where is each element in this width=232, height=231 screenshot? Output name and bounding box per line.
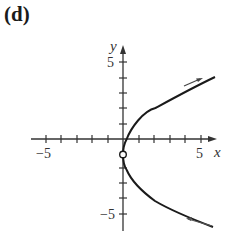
y-tick-label-neg5: −5 — [100, 207, 115, 222]
y-axis-label: y — [108, 38, 117, 54]
y-axis-arrow-icon — [120, 45, 126, 54]
curve-lower-branch — [123, 155, 213, 228]
x-axis-arrow-icon — [208, 136, 217, 142]
x-tick-label-5: 5 — [196, 146, 203, 161]
graph: −5 5 x y 5 −5 — [0, 0, 232, 231]
x-axis-label: x — [213, 144, 221, 160]
x-tick-label-neg5: −5 — [36, 146, 51, 161]
y-axis: y 5 −5 — [100, 38, 127, 231]
open-circle-excluded-point — [120, 151, 127, 158]
y-tick-label-5: 5 — [107, 55, 114, 70]
